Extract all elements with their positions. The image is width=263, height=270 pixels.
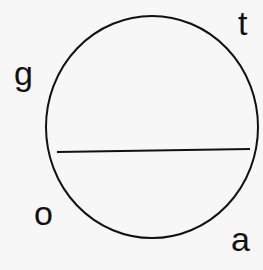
label-t: t — [238, 6, 247, 40]
chord — [57, 149, 250, 152]
label-a: a — [231, 222, 250, 256]
circle — [46, 16, 258, 238]
label-g: g — [14, 56, 33, 90]
label-o: o — [34, 196, 53, 230]
